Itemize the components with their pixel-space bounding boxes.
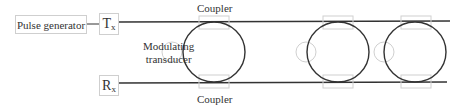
coupler-bottom-label: Coupler	[197, 94, 232, 105]
modulating-transducer-label: Modulating transducer	[143, 40, 194, 66]
tx-subscript: x	[111, 22, 116, 32]
rx-box: Rx	[99, 75, 119, 96]
pulse-generator-box: Pulse generator	[15, 15, 87, 34]
bottom-transmission-line	[119, 82, 447, 83]
tx-box: Tx	[99, 13, 119, 35]
modulating-transducer-2	[296, 42, 316, 62]
coupler-top-label: Coupler	[197, 3, 232, 14]
rx-subscript: x	[111, 84, 116, 94]
modulating-transducer-line-2: transducer	[143, 53, 194, 66]
top-transmission-line	[119, 21, 450, 22]
resonator-loop-3	[384, 22, 446, 82]
tx-label: T	[102, 16, 111, 32]
diagram: Pulse generator Tx Rx Modulating transdu…	[0, 0, 462, 109]
pulse-generator-label: Pulse generator	[17, 19, 85, 31]
modulating-transducer-line-1: Modulating	[143, 40, 194, 53]
rx-label: R	[102, 78, 111, 94]
